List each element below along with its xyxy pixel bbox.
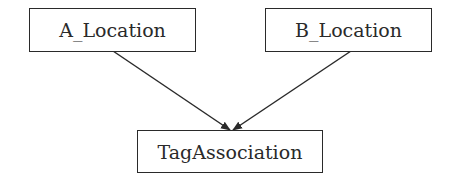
node-tag-association: TagAssociation	[137, 130, 323, 173]
edge-a-to-tag	[113, 51, 230, 130]
edge-b-to-tag	[233, 51, 351, 130]
node-label: B_Location	[295, 19, 402, 41]
node-label: TagAssociation	[158, 141, 303, 163]
node-b-location: B_Location	[265, 8, 432, 52]
node-label: A_Location	[59, 19, 166, 41]
node-a-location: A_Location	[29, 8, 196, 52]
